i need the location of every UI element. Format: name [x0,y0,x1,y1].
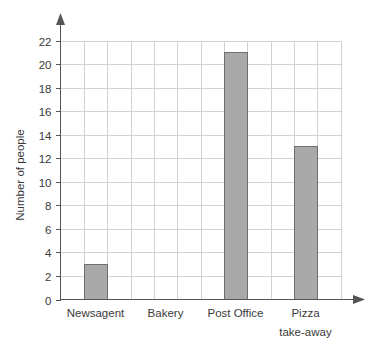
bar-chart: 0246810121416182022 NewsagentBakeryPost … [0,0,381,361]
y-tick-label: 16 [39,106,52,118]
bar-post-office [225,53,248,300]
y-tick-label: 2 [45,271,51,283]
y-tick-label: 22 [39,36,52,48]
y-axis-title: Number of people [14,129,26,220]
y-tick-label: 10 [39,177,52,189]
x-axis-category-labels: NewsagentBakeryPost OfficePizzatake-away [67,307,332,338]
y-axis-ticks: 0246810121416182022 [39,36,61,307]
y-tick-label: 6 [45,224,51,236]
y-tick-label: 14 [39,130,52,142]
x-axis-label-1: Pizza [291,307,320,319]
y-tick-label: 4 [45,247,52,259]
y-axis-arrow-icon [56,13,65,25]
x-axis-label-1: Bakery [148,307,184,319]
chart-canvas: 0246810121416182022 NewsagentBakeryPost … [0,0,381,361]
y-tick-label: 20 [39,59,52,71]
x-axis-arrow-icon [353,295,365,304]
x-axis-label-2: take-away [279,326,332,338]
x-axis-label-1: Post Office [207,307,263,319]
bar-pizza-take-away [295,147,318,300]
bar-newsagent [85,265,108,300]
y-tick-label: 8 [45,200,51,212]
y-tick-label: 18 [39,83,52,95]
y-tick-label: 0 [45,295,51,307]
x-axis-label-1: Newsagent [67,307,125,319]
y-tick-label: 12 [39,153,52,165]
